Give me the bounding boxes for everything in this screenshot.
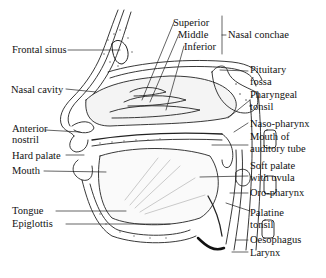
soft-palate-shape [222,134,233,168]
label-nasal-cavity: Nasal cavity [11,84,63,95]
label-palatine-tonsil-line2: tonsil [250,219,273,230]
label-pituitary-fossa-line2: fossa [250,76,272,87]
label-pituitary-fossa-line1: Pituitary [250,64,286,75]
label-epiglottis: Epiglottis [12,218,53,229]
conchae-brace [222,16,226,54]
tongue-shape [99,149,219,225]
label-superior-concha: Superior [173,17,209,28]
label-middle-concha: Middle [178,29,208,40]
label-nasal-conchae: Nasal conchae [228,29,289,40]
label-soft-palate-line2: with uvula [250,172,295,183]
label-oro-pharynx: Oro-pharynx [250,187,304,198]
label-naso-pharynx: Naso-pharynx [250,118,309,129]
larynx-shape [198,238,224,249]
label-inferior-concha: Inferior [184,41,216,52]
label-pharyngeal-tonsil-line2: tonsil [250,101,273,112]
label-mouth: Mouth [12,165,40,176]
label-anterior-nostril-line2: nostril [12,134,39,145]
label-frontal-sinus: Frontal sinus [12,44,67,55]
palatine-tonsil-shape [236,169,250,186]
label-auditory-tube-line2: auditory tube [250,143,306,154]
label-tongue: Tongue [12,205,43,216]
label-soft-palate-line1: Soft palate [250,160,295,171]
label-anterior-nostril-line1: Anterior [12,123,48,134]
label-hard-palate: Hard palate [12,150,61,161]
label-palatine-tonsil-line1: Palatine [250,207,284,218]
label-oesophagus: Oesophagus [250,234,301,245]
upper-lip [70,136,88,152]
nostril-shape [72,122,94,133]
label-larynx: Larynx [250,247,280,258]
label-pharyngeal-tonsil-line1: Pharyngeal [250,89,297,100]
label-auditory-tube-line1: Mouth of [250,131,289,142]
lower-lip [73,160,92,180]
